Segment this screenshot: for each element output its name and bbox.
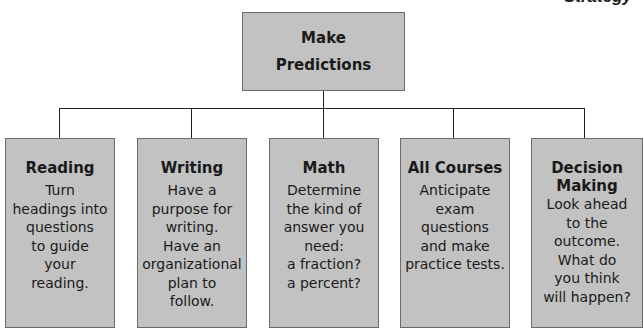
- body-line: answer you: [272, 218, 376, 237]
- heading-line: Making: [532, 177, 642, 195]
- page-title-partial: Strategy: [564, 0, 632, 7]
- body-line: writing.: [140, 218, 244, 237]
- connector-root-down: [323, 91, 324, 109]
- body-line: a fraction?: [272, 255, 376, 274]
- node-heading: Math: [270, 159, 378, 177]
- body-line: to guide: [8, 237, 112, 256]
- root-node-make-predictions: Make Predictions: [242, 12, 405, 91]
- heading-line: Decision: [532, 159, 642, 177]
- body-line: Anticipate: [403, 181, 507, 200]
- connector-math: [323, 108, 324, 138]
- root-title-line1: Make: [301, 25, 346, 52]
- body-line: to the: [534, 214, 640, 233]
- node-body: Turn headings into questions to guide yo…: [6, 181, 114, 292]
- body-line: outcome.: [534, 232, 640, 251]
- root-title-line2: Predictions: [276, 52, 372, 79]
- node-body: Look ahead to the outcome. What do you t…: [532, 195, 642, 306]
- body-line: reading.: [8, 274, 112, 293]
- connector-writing: [191, 108, 192, 138]
- body-line: follow.: [140, 292, 244, 311]
- node-heading: Writing: [138, 159, 246, 177]
- body-line: plan to: [140, 274, 244, 293]
- body-line: questions: [403, 218, 507, 237]
- body-line: What do: [534, 251, 640, 270]
- node-writing: Writing Have a purpose for writing. Have…: [137, 138, 247, 328]
- body-line: and make: [403, 237, 507, 256]
- node-all-courses: All Courses Anticipate exam questions an…: [400, 138, 510, 328]
- node-math: Math Determine the kind of answer you ne…: [269, 138, 379, 328]
- body-line: will happen?: [534, 288, 640, 307]
- node-heading: Reading: [6, 159, 114, 177]
- node-heading: Decision Making: [532, 159, 642, 195]
- body-line: Determine: [272, 181, 376, 200]
- body-line: headings into: [8, 200, 112, 219]
- body-line: need:: [272, 237, 376, 256]
- node-reading: Reading Turn headings into questions to …: [5, 138, 115, 328]
- connector-decision-making: [584, 108, 585, 138]
- body-line: Have an: [140, 237, 244, 256]
- node-body: Have a purpose for writing. Have an orga…: [138, 181, 246, 311]
- node-decision-making: Decision Making Look ahead to the outcom…: [531, 138, 643, 328]
- body-line: a percent?: [272, 274, 376, 293]
- connector-horizontal: [59, 108, 585, 109]
- body-line: your: [8, 255, 112, 274]
- connector-all-courses: [453, 108, 454, 138]
- connector-reading: [59, 108, 60, 138]
- node-body: Determine the kind of answer you need: a…: [270, 181, 378, 292]
- body-line: you think: [534, 269, 640, 288]
- body-line: Turn: [8, 181, 112, 200]
- node-heading: All Courses: [401, 159, 509, 177]
- body-line: purpose for: [140, 200, 244, 219]
- node-body: Anticipate exam questions and make pract…: [401, 181, 509, 274]
- body-line: the kind of: [272, 200, 376, 219]
- body-line: Look ahead: [534, 195, 640, 214]
- body-line: Have a: [140, 181, 244, 200]
- body-line: questions: [8, 218, 112, 237]
- body-line: exam: [403, 200, 507, 219]
- body-line: organizational: [140, 255, 244, 274]
- body-line: practice tests.: [403, 255, 507, 274]
